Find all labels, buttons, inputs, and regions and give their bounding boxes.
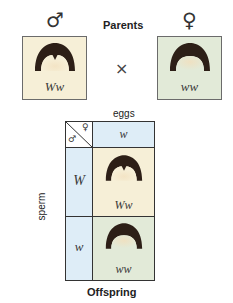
hair-widows-peak-icon: [33, 41, 77, 75]
sperm-allele-cell-2: w: [66, 217, 93, 280]
egg-allele: w: [119, 127, 127, 141]
female-symbol-icon: ♀: [182, 10, 197, 30]
egg-allele-cell: w: [93, 122, 154, 148]
offspring-title: Offspring: [87, 286, 137, 298]
parent-female-card: ww: [157, 36, 222, 100]
sperm-label: sperm: [36, 193, 47, 221]
sperm-allele-cell-1: W: [66, 148, 93, 217]
punnett-square: ♀ ♂ w W w Ww ww: [65, 121, 155, 281]
offspring-cell-ww: ww: [93, 217, 154, 280]
parent-male-card: Ww: [22, 36, 87, 100]
offspring-genotype-1: Ww: [93, 198, 154, 213]
offspring-cell-Ww: Ww: [93, 148, 154, 217]
hair-widows-peak-icon: [104, 153, 144, 185]
offspring-genotype-2: ww: [93, 262, 154, 277]
corner-cell: ♀ ♂: [66, 122, 93, 148]
eggs-label: eggs: [113, 108, 135, 119]
hair-straight-hairline-icon: [168, 41, 212, 75]
cross-symbol: ×: [115, 59, 128, 78]
sperm-allele-2: w: [75, 239, 84, 254]
parent-male-genotype: Ww: [23, 79, 86, 95]
parent-female-genotype: ww: [158, 79, 221, 95]
hair-straight-hairline-icon: [104, 221, 144, 253]
parents-title: Parents: [103, 19, 143, 31]
corner-female-icon: ♀: [82, 122, 89, 132]
corner-male-icon: ♂: [68, 134, 76, 144]
male-symbol-icon: ♂: [46, 10, 64, 30]
sperm-allele-1: W: [73, 173, 85, 188]
